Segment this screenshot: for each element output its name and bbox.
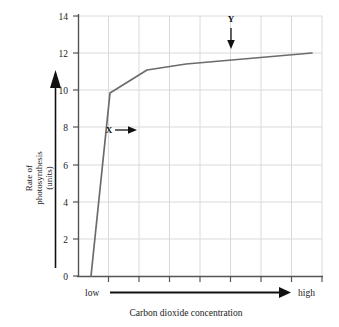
y-tick-label-2: 2 bbox=[63, 235, 68, 245]
y-tick-label-0: 0 bbox=[63, 272, 68, 282]
y-axis-title-line-1: Rate of bbox=[24, 165, 34, 191]
y-tick-label-12: 12 bbox=[59, 49, 69, 59]
y-tick-label-8: 8 bbox=[63, 123, 68, 133]
x-axis-title: Carbon dioxide concentration bbox=[130, 308, 243, 318]
y-axis-title-line-2: photosynthesis bbox=[34, 151, 44, 205]
x-axis-high-label: high bbox=[298, 288, 315, 298]
chart-svg: 14 12 10 8 6 4 2 0 X Y Rate of bbox=[0, 0, 339, 327]
y-tick-label-14: 14 bbox=[59, 12, 69, 22]
y-axis-title-line-3: (units) bbox=[44, 166, 54, 190]
y-tick-label-6: 6 bbox=[63, 161, 68, 171]
chart-figure: 14 12 10 8 6 4 2 0 X Y Rate of bbox=[0, 0, 339, 327]
annotation-x-label: X bbox=[106, 125, 113, 135]
annotation-y-label: Y bbox=[228, 14, 235, 24]
x-axis-low-label: low bbox=[85, 288, 99, 298]
y-tick-label-4: 4 bbox=[63, 198, 68, 208]
